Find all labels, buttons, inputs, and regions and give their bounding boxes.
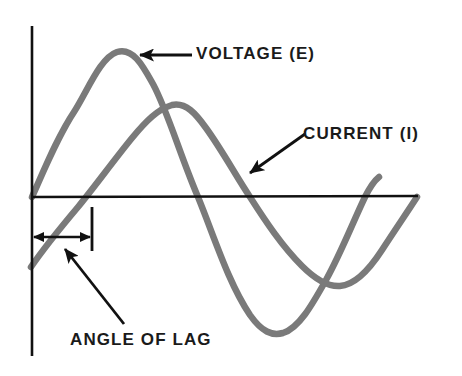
- current-label: CURRENT (I): [303, 124, 419, 144]
- angle-of-lag-label: ANGLE OF LAG: [70, 330, 212, 350]
- current-arrow-line: [250, 134, 305, 173]
- angle-of-lag-callout-arrow: [65, 249, 124, 324]
- waveform-figure: VOLTAGE (E) CURRENT (I) ANGLE OF LAG: [0, 0, 462, 376]
- angle-of-lag-arrow-line: [65, 249, 124, 324]
- x-axis: [32, 196, 418, 197]
- voltage-curve: [32, 51, 379, 334]
- current-callout-arrow: [250, 134, 305, 173]
- voltage-label: VOLTAGE (E): [196, 44, 315, 64]
- waveform-curves: [31, 51, 417, 334]
